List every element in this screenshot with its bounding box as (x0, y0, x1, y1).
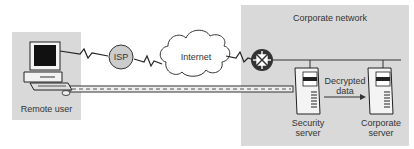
decrypted-data-label-line2: data (322, 86, 368, 96)
dialup-link-icon (60, 49, 108, 58)
internet-label: Internet (168, 52, 224, 62)
security-server-icon (295, 68, 320, 114)
vpn-tunnel (70, 86, 293, 92)
isp-label: ISP (109, 52, 133, 62)
security-server-label-line2: server (284, 128, 332, 138)
corporate-server-label-line2: server (356, 128, 406, 138)
corporate-server-icon (368, 68, 393, 114)
corporate-server-label-line1: Corporate (356, 118, 406, 128)
security-server-label-line1: Security (284, 118, 332, 128)
router-icon (251, 49, 273, 71)
corporate-network-label: Corporate network (280, 13, 380, 23)
isp-internet-link-icon (134, 56, 162, 66)
desktop-computer-icon (24, 42, 72, 96)
remote-user-label: Remote user (12, 104, 81, 114)
decrypted-data-label-line1: Decrypted (322, 76, 368, 86)
